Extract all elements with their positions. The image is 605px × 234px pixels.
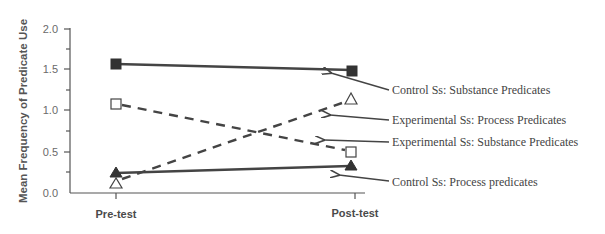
annotation-exp-substance: Experimental Ss: Substance Predicates: [392, 135, 579, 149]
y-tick-labels: 2.0 1.5 1.0 0.5 0.0: [43, 23, 58, 199]
y-tick-0.0: 0.0: [43, 187, 58, 199]
marker-control-substance-pre: [111, 59, 121, 69]
x-label-pre-test: Pre-test: [96, 208, 137, 220]
y-axis: [64, 28, 70, 193]
x-axis: [70, 193, 365, 199]
marker-exp-process-post: [345, 93, 357, 104]
annotation-exp-process: Experimental Ss: Process Predicates: [392, 113, 567, 127]
arrow-icon-exp-process: [330, 115, 389, 120]
marker-exp-substance-post: [346, 147, 356, 157]
annotation-control-process: Control Ss: Process predicates: [392, 175, 538, 189]
y-tick-0.5: 0.5: [43, 146, 58, 158]
annotation-control-substance: Control Ss: Substance Predicates: [392, 83, 551, 97]
arrow-icon-exp-substance: [324, 140, 389, 142]
marker-exp-substance-pre: [111, 99, 121, 109]
y-tick-2.0: 2.0: [43, 23, 58, 35]
y-tick-1.0: 1.0: [43, 104, 58, 116]
line-control-process: [116, 166, 350, 173]
marker-exp-process-pre: [110, 178, 122, 188]
y-tick-1.5: 1.5: [43, 63, 58, 75]
series-lines: [116, 64, 352, 179]
y-axis-title: Mean Frequency of Predicate Use: [17, 19, 29, 203]
line-chart: Mean Frequency of Predicate Use 2.0 1.5 …: [0, 0, 605, 234]
marker-control-substance-post: [347, 66, 357, 76]
line-exp-substance: [122, 105, 345, 150]
arrow-icon-control-substance: [331, 73, 389, 90]
line-control-substance: [116, 64, 352, 70]
arrow-icon-control-process: [339, 175, 389, 181]
x-label-post-test: Post-test: [331, 207, 378, 219]
annotation-arrows: [324, 73, 389, 181]
